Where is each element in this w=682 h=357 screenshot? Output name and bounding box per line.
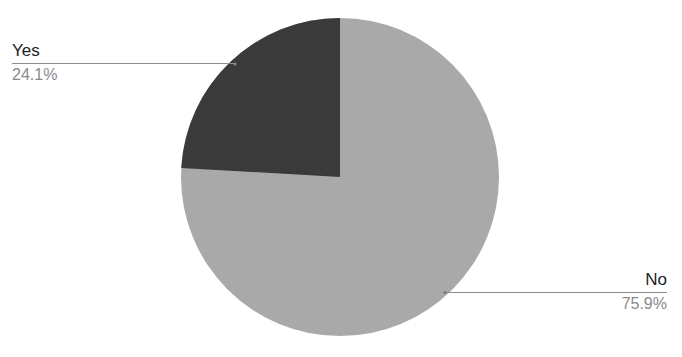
no-label: No: [645, 271, 667, 288]
no-percent: 75.9%: [622, 296, 667, 312]
pie-chart: [0, 0, 682, 357]
no-leader-dot: [444, 291, 447, 294]
yes-label: Yes: [12, 42, 40, 59]
pie-slice-yes[interactable]: [181, 18, 340, 177]
yes-leader-dot: [234, 63, 237, 66]
yes-percent: 24.1%: [12, 67, 57, 83]
